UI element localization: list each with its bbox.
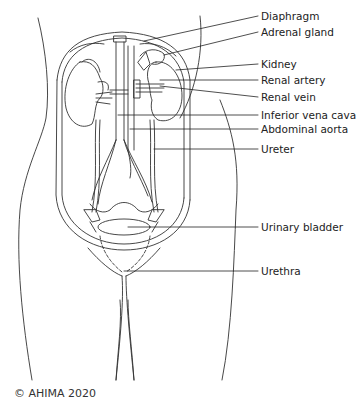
label-renal-vein: Renal vein [261, 91, 316, 103]
renal-vessels [110, 80, 164, 98]
label-inferior-vena-cava: Inferior vena cava [261, 109, 356, 121]
label-diaphragm: Diaphragm [261, 10, 319, 22]
pelvis [84, 203, 164, 233]
kidney-left [65, 59, 112, 126]
label-adrenal-gland: Adrenal gland [261, 26, 334, 38]
label-urethra: Urethra [261, 265, 301, 277]
urinary-system-figure: Diaphragm Adrenal gland Kidney Renal art… [0, 0, 356, 410]
label-ureter: Ureter [261, 143, 294, 155]
label-kidney: Kidney [261, 58, 297, 70]
label-urinary-bladder: Urinary bladder [261, 221, 343, 233]
ureters [92, 120, 158, 212]
leader-lines [118, 16, 258, 271]
copyright-notice: © AHIMA 2020 [14, 387, 96, 400]
great-vessels [92, 36, 152, 204]
urinary-system-illustration [0, 0, 356, 410]
label-abdominal-aorta: Abdominal aorta [261, 123, 348, 135]
urethra [88, 236, 160, 380]
label-renal-artery: Renal artery [261, 74, 326, 86]
